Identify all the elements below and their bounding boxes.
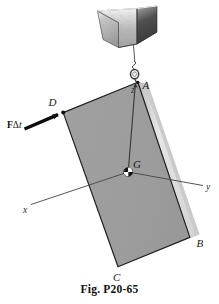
- label-axis-y: y: [205, 182, 211, 192]
- figure-caption: Fig. P20-65: [0, 283, 219, 295]
- suspension-cable-upper: [134, 45, 135, 62]
- force-symbol-time: t: [19, 120, 22, 130]
- label-force-impulse: FΔt: [7, 120, 22, 130]
- label-g: G: [133, 158, 141, 170]
- label-axis-x: x: [22, 205, 28, 215]
- concrete-bucket: [98, 6, 158, 48]
- impulse-force-arrow: [25, 115, 59, 129]
- shackle-coil: [132, 61, 135, 69]
- force-arrow-shaft: [25, 115, 59, 129]
- eye-ring-hole: [133, 72, 137, 77]
- label-a: A: [142, 79, 150, 91]
- figure-drawing: A D G B C x y z FΔt: [0, 0, 219, 304]
- label-c: C: [113, 271, 121, 283]
- label-axis-z: z: [130, 85, 135, 95]
- center-of-gravity-marker: [124, 168, 133, 177]
- label-d: D: [48, 96, 57, 108]
- label-b: B: [197, 237, 204, 249]
- vertex-a-dot: [136, 81, 139, 84]
- vertex-d-dot: [61, 111, 65, 115]
- suspension-assembly: [131, 45, 139, 83]
- figure-container: A D G B C x y z FΔt Fig. P20-65: [0, 0, 219, 304]
